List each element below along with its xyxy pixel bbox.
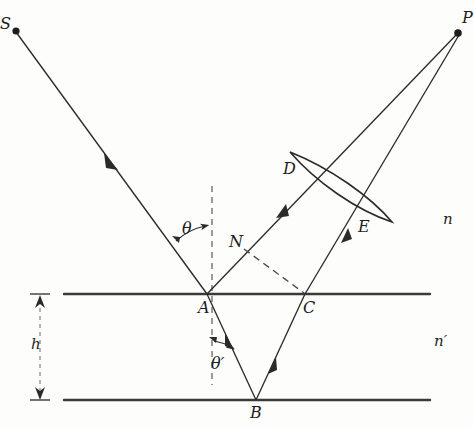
label-point-N: N [229,234,243,250]
label-point-S: S [0,16,11,32]
incident-ray-arrowhead [104,153,118,170]
label-point-D: D [283,161,296,177]
source-point-S-dot [12,27,19,34]
label-point-B: B [250,405,262,421]
label-point-C: C [303,300,315,316]
label-angle-theta-prime: θ′ [211,356,224,372]
wavefront-dashed-N-to-C [244,249,304,293]
emergent-ray-A-arrowhead [276,204,289,218]
theta-prime-angle-arc-tail [209,337,217,343]
label-dimension-h: h [31,337,41,352]
label-medium-n-prime: n′ [434,334,447,349]
label-medium-n: n [443,212,453,227]
h-dimension-arrow-up [35,295,45,308]
label-point-P: P [462,10,473,26]
emergent-ray-A-to-P [207,33,458,294]
emergent-ray-C-to-P [305,35,459,294]
reflected-ray-B-to-C [256,294,305,400]
label-angle-theta: θ [182,221,192,237]
ray-diagram-canvas [0,0,474,427]
lens-shape [290,152,392,222]
label-point-A: A [198,300,210,316]
ray-diagram-figure: S P A B C D E N θ θ′ n n′ h [0,0,474,427]
image-point-P-dot [454,29,462,37]
label-point-E: E [358,219,370,235]
reflected-ray-arrowhead [268,357,277,374]
theta-angle-arc-tail [172,236,180,243]
